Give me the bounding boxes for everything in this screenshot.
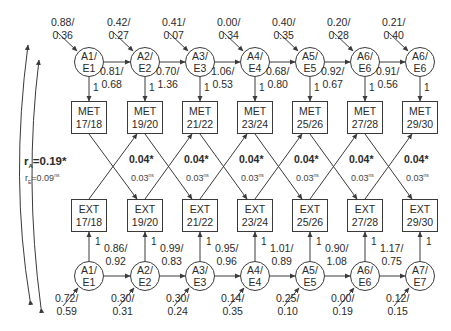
residual-variance-label: 0.20/0.28 — [327, 16, 350, 42]
met-box: MET29/30 — [402, 101, 438, 134]
value-a: 0.99/ — [160, 242, 183, 255]
value-e: 0.67 — [321, 78, 344, 91]
ns-superscript: ns — [259, 172, 264, 178]
factor-label: A6/ — [357, 50, 373, 62]
value: 0.03 — [186, 173, 204, 183]
value-a: 1.01/ — [270, 242, 293, 255]
value-e: 1.36 — [156, 78, 179, 91]
box-label: EXT — [79, 203, 99, 216]
path-coefficient-label: 0.92/0.67 — [321, 65, 344, 91]
value-e: 0.40 — [382, 29, 405, 42]
factor-label: A1/ — [81, 264, 97, 276]
loading-label: 1 — [204, 82, 210, 93]
met-box: MET21/22 — [182, 101, 218, 134]
box-label: 27/28 — [352, 216, 378, 229]
value-a: 0.30/ — [111, 292, 134, 305]
factor-label: A5/ — [302, 50, 318, 62]
ns-superscript: ns — [314, 172, 319, 178]
value: 0.03 — [241, 173, 259, 183]
box-label: 25/26 — [297, 118, 323, 131]
latent-factor-top: A6/E6 — [405, 47, 435, 77]
cross-coefficient-bold: 0.04* — [129, 153, 154, 165]
factor-label: A4/ — [247, 50, 263, 62]
factor-label: A6/ — [412, 50, 428, 62]
value-a: 0.72/ — [55, 292, 78, 305]
value-a: 0.81/ — [100, 65, 123, 78]
factor-label: E5 — [304, 62, 317, 74]
loading-label: 1 — [371, 236, 377, 247]
box-label: EXT — [135, 203, 155, 216]
value-e: 1.08 — [325, 255, 348, 268]
value-a: 1.17/ — [380, 242, 403, 255]
box-label: 21/22 — [187, 118, 213, 131]
residual-variance-label: 0.30/0.31 — [111, 292, 134, 318]
residual-variance-label: 0.41/0.07 — [162, 16, 185, 42]
cross-coefficient-small: 0.03ns — [186, 172, 209, 183]
value-e: 0.24 — [166, 305, 189, 318]
ext-box: EXT17/18 — [71, 199, 107, 232]
residual-variance-label: 0.21/0.40 — [382, 16, 405, 42]
value-a: 0.86/ — [104, 242, 127, 255]
path-coefficient-label: 0.68/0.80 — [266, 65, 289, 91]
latent-factor-bottom: A6/E6 — [350, 261, 380, 291]
cross-lagged-twin-model-diagram: A1/E10.88/0.361MET17/18EXT17/18A1/E110.7… — [0, 0, 451, 331]
value-a: 0.25/ — [276, 292, 299, 305]
ext-box: EXT27/28 — [347, 199, 383, 232]
latent-factor-bottom: A1/E1 — [74, 261, 104, 291]
ext-box: EXT21/22 — [182, 199, 218, 232]
path-coefficient-label: 0.86/0.92 — [104, 242, 127, 268]
loading-label: 1 — [151, 236, 157, 247]
ns-superscript: ns — [369, 172, 374, 178]
factor-label: E3 — [194, 62, 207, 74]
value-e: 0.96 — [215, 255, 238, 268]
box-label: MET — [189, 105, 211, 118]
residual-variance-label: 0.14/0.35 — [221, 292, 244, 318]
value-e: 0.27 — [107, 29, 130, 42]
value-a: 0.20/ — [327, 16, 350, 29]
factor-label: E6 — [359, 62, 372, 74]
value-e: 0.83 — [160, 255, 183, 268]
factor-label: A2/ — [137, 264, 153, 276]
loading-label: 1 — [206, 236, 212, 247]
value-a: 0.21/ — [382, 16, 405, 29]
path-coefficient-label: 1.17/0.75 — [380, 242, 403, 268]
latent-factor-bottom: A3/E3 — [185, 261, 215, 291]
box-label: MET — [354, 105, 376, 118]
path-coefficient-label: 0.91/0.56 — [376, 65, 399, 91]
value-a: 0.00/ — [331, 292, 354, 305]
value-a: 0.91/ — [376, 65, 399, 78]
residual-variance-label: 0.00/0.34 — [217, 16, 240, 42]
box-label: 29/30 — [407, 118, 433, 131]
value-e: 0.19 — [331, 305, 354, 318]
box-label: 25/26 — [297, 216, 323, 229]
factor-label: A3/ — [192, 50, 208, 62]
value-a: 0.41/ — [162, 16, 185, 29]
path-coefficient-label: 1.06/0.53 — [211, 65, 234, 91]
loading-label: 1 — [259, 82, 265, 93]
value: 0.03 — [406, 173, 424, 183]
box-label: EXT — [245, 203, 265, 216]
value-a: 0.30/ — [166, 292, 189, 305]
cross-coefficient-small: 0.03ns — [296, 172, 319, 183]
value-e: 0.31 — [111, 305, 134, 318]
factor-label: A4/ — [247, 264, 263, 276]
residual-variance-label: 0.40/0.35 — [272, 16, 295, 42]
cross-coefficient-small: 0.03ns — [131, 172, 154, 183]
box-label: MET — [244, 105, 266, 118]
r-e-label: rE=0.09ns — [25, 172, 59, 185]
cross-coefficient-small: 0.03ns — [406, 172, 429, 183]
value-e: 0.07 — [162, 29, 185, 42]
value-a: 0.42/ — [107, 16, 130, 29]
box-label: EXT — [355, 203, 375, 216]
latent-factor-bottom: A7/E7 — [405, 261, 435, 291]
factor-label: E1 — [83, 276, 96, 288]
box-label: 17/18 — [76, 118, 102, 131]
value-a: 0.90/ — [325, 242, 348, 255]
value-e: 0.36 — [51, 29, 74, 42]
met-box: MET25/26 — [292, 101, 328, 134]
loading-label: 1 — [261, 236, 267, 247]
residual-variance-label: 0.12/0.15 — [386, 292, 409, 318]
box-label: 23/24 — [242, 118, 268, 131]
r-a-label: rA=0.19* — [24, 155, 66, 169]
value-e: 0.80 — [266, 78, 289, 91]
